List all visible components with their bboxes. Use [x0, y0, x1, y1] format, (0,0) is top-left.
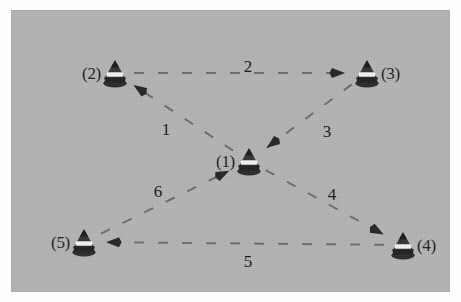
node-5-label: (5): [51, 234, 70, 251]
node-2-label: (2): [82, 65, 101, 82]
edge-1-label: 1: [162, 121, 171, 138]
edge-3-arrowhead: [267, 136, 280, 148]
edge-4-label: 4: [328, 186, 337, 203]
edge-3-line: [267, 84, 352, 147]
edge-1-arrowhead: [133, 85, 147, 96]
edge-2-arrowhead: [329, 68, 345, 78]
cone-buoy-icon: [98, 58, 132, 88]
node-4[interactable]: (4): [386, 230, 420, 260]
edge-2-label: 2: [244, 58, 253, 75]
edge-4-line: [266, 170, 384, 234]
node-2[interactable]: (2): [98, 58, 132, 88]
diagram-panel: (1) (2) (3): [11, 10, 450, 292]
cone-buoy-icon: [350, 58, 384, 88]
node-4-label: (4): [417, 237, 436, 254]
node-3[interactable]: (3): [350, 58, 384, 88]
edge-6-label: 6: [154, 183, 163, 200]
node-3-label: (3): [381, 65, 400, 82]
cone-buoy-icon: [386, 230, 420, 260]
cone-buoy-icon: [232, 146, 266, 176]
edge-5-arrowhead: [106, 237, 122, 247]
cone-buoy-icon: [67, 227, 101, 257]
edge-1-line: [133, 85, 233, 150]
edge-6-line: [101, 171, 229, 234]
edge-3-label: 3: [323, 123, 332, 140]
node-1[interactable]: (1): [232, 146, 266, 176]
edge-5-label: 5: [244, 253, 253, 270]
edge-5-line: [106, 242, 384, 245]
figure-canvas: (1) (2) (3): [0, 0, 461, 302]
edge-4-arrowhead: [370, 224, 384, 235]
node-5[interactable]: (5): [67, 227, 101, 257]
node-1-label: (1): [216, 153, 235, 170]
edge-6-arrowhead: [215, 171, 229, 181]
